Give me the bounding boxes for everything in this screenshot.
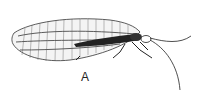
lacewing-illustration	[0, 0, 201, 104]
figure-label: A	[81, 70, 89, 84]
antennae	[150, 36, 191, 90]
head	[141, 36, 151, 43]
thorax	[130, 33, 142, 41]
